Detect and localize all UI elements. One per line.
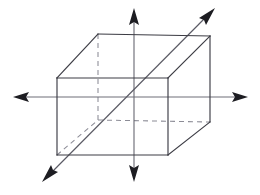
prism-symmetry-diagram <box>0 0 260 195</box>
figure-container <box>0 0 260 195</box>
front-face-fill <box>57 78 168 155</box>
